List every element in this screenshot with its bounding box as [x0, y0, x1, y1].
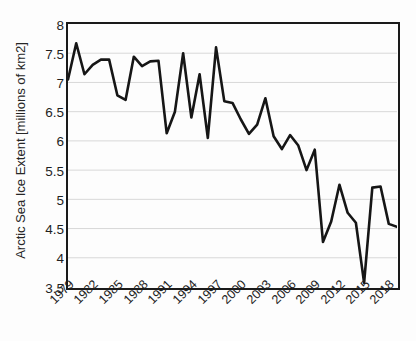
y-tick-label: 4.5: [36, 222, 64, 237]
sea-ice-extent-line: [68, 43, 397, 283]
y-tick-label: 5.5: [36, 163, 64, 178]
y-tick-label: 7.5: [36, 46, 64, 61]
y-axis-label: Arctic Sea Ice Extent [millions of km2]: [13, 42, 28, 259]
arctic-sea-ice-extent-chart: Arctic Sea Ice Extent [millions of km2] …: [0, 0, 416, 341]
y-tick-label: 8: [36, 17, 64, 32]
horizontal-gridlines: [68, 53, 397, 258]
y-tick-label: 5: [36, 192, 64, 207]
y-tick-label: 6: [36, 134, 64, 149]
plot-area: [66, 22, 400, 290]
x-axis-tick-labels: 1979198219851988199119941997200020032006…: [0, 293, 416, 341]
y-tick-label: 7: [36, 75, 64, 90]
data-line-svg: [68, 24, 397, 287]
y-tick-label: 6.5: [36, 105, 64, 120]
y-tick-label: 4: [36, 251, 64, 266]
